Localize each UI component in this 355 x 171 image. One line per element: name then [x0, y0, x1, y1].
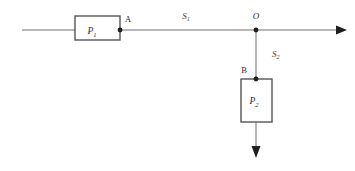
node-label-o: O [253, 11, 260, 21]
pipeline-branch-diagram: P1 P2 S1 S2 A O B [0, 0, 355, 171]
node-label-a: A [125, 14, 132, 24]
segment-label-s1-sub: 1 [187, 15, 190, 22]
node-dot-b [254, 77, 259, 82]
diagram-canvas: P1 P2 S1 S2 A O B [0, 0, 355, 171]
arrowhead-down-icon [252, 146, 261, 158]
segment-label-s2-sub: 2 [277, 53, 280, 60]
component-box-p1 [75, 16, 120, 40]
node-dot-a [118, 28, 123, 33]
component-label-p1-sub: 1 [93, 31, 96, 38]
segment-label-s2: S2 [272, 49, 280, 60]
node-dot-o [254, 28, 259, 33]
segment-label-s1: S1 [182, 11, 190, 22]
node-label-b: B [241, 65, 247, 75]
arrowhead-right-icon [336, 26, 347, 35]
